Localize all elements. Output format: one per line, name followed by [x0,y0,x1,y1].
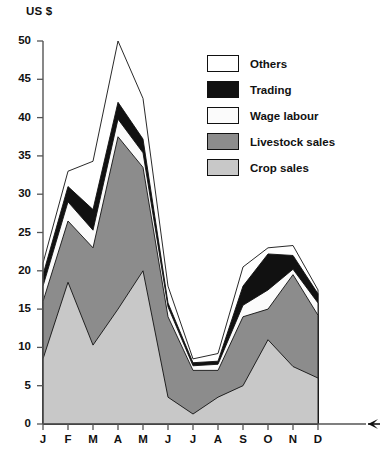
legend-label: Others [250,58,287,70]
legend-label: Crop sales [250,162,309,174]
legend-label: Trading [250,84,292,96]
legend-item-others[interactable]: Others [207,55,335,72]
legend-swatch-icon [207,107,239,124]
x-axis-arrow-icon [368,419,380,429]
legend-label: Wage labour [250,110,319,122]
legend-swatch-icon [207,159,239,176]
legend-item-wage-labour[interactable]: Wage labour [207,107,335,124]
legend-item-crop-sales[interactable]: Crop sales [207,159,335,176]
legend-swatch-icon [207,81,239,98]
legend-swatch-icon [207,55,239,72]
y-axis-ticks [37,41,43,424]
stacked-area-chart: US $ 05101520253035404550 JFMAMJJASOND O… [0,0,391,455]
legend-swatch-icon [207,133,239,150]
x-axis-ticks [43,424,318,430]
legend-item-livestock-sales[interactable]: Livestock sales [207,133,335,150]
legend-label: Livestock sales [250,136,335,148]
legend-item-trading[interactable]: Trading [207,81,335,98]
chart-legend: OthersTradingWage labourLivestock salesC… [207,55,335,176]
